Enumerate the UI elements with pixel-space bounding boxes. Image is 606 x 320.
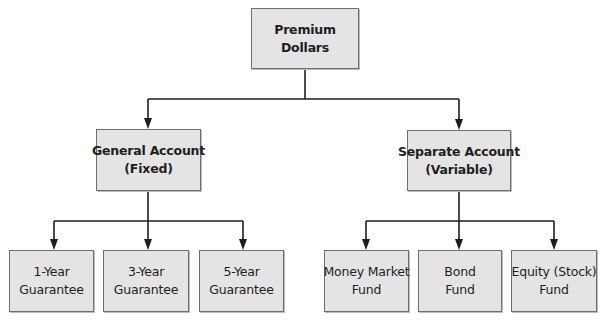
node-label: Guarantee (209, 281, 273, 299)
node-bond-fund: Bond Fund (418, 250, 502, 312)
node-premium-dollars: Premium Dollars (251, 8, 359, 69)
node-equity-stock-fund: Equity (Stock) Fund (511, 250, 597, 312)
node-label: Premium (274, 21, 336, 39)
node-label: Guarantee (19, 281, 83, 299)
node-label: Fund (445, 281, 475, 299)
node-1-year-guarantee: 1-Year Guarantee (9, 250, 94, 312)
node-label: Fund (352, 281, 382, 299)
node-label: (Variable) (425, 161, 492, 179)
node-label: Money Market (324, 263, 410, 281)
node-money-market-fund: Money Market Fund (324, 250, 409, 312)
node-label: Fund (539, 281, 569, 299)
node-label: Separate Account (398, 143, 520, 161)
node-label: Dollars (281, 39, 329, 57)
node-5-year-guarantee: 5-Year Guarantee (199, 250, 284, 312)
node-label: 1-Year (33, 263, 69, 281)
node-label: Bond (444, 263, 475, 281)
node-label: Guarantee (114, 281, 178, 299)
node-general-account: General Account (Fixed) (96, 129, 201, 191)
node-label: Equity (Stock) (511, 263, 596, 281)
node-label: General Account (92, 142, 205, 160)
node-separate-account: Separate Account (Variable) (407, 130, 511, 191)
node-label: 5-Year (223, 263, 259, 281)
node-label: (Fixed) (124, 160, 172, 178)
node-3-year-guarantee: 3-Year Guarantee (103, 250, 189, 312)
node-label: 3-Year (128, 263, 164, 281)
